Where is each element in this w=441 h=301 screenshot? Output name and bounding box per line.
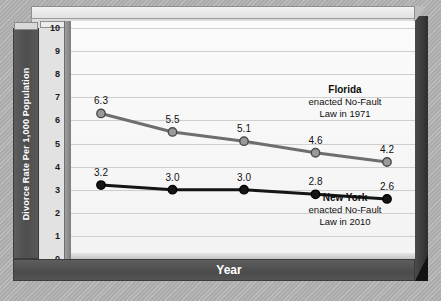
data-point-label: 4.2 xyxy=(380,144,394,155)
annotation-florida-name: Florida xyxy=(275,84,415,96)
data-point-label: 5.1 xyxy=(237,123,251,134)
data-point-label: 2.6 xyxy=(380,181,394,192)
y-axis-edge-bevel xyxy=(64,21,71,259)
data-point-marker xyxy=(311,149,319,157)
data-point-marker xyxy=(240,137,248,145)
data-point-label: 2.8 xyxy=(309,176,323,187)
data-point-label: 5.5 xyxy=(166,114,180,125)
annotation-newyork: New York enacted No-Fault Law in 2010 xyxy=(275,192,415,228)
chart-right-wall xyxy=(415,16,428,281)
data-point-label: 4.6 xyxy=(309,135,323,146)
y-tick-label: 6 xyxy=(40,115,60,125)
data-point-label: 3.0 xyxy=(166,172,180,183)
annotation-florida: Florida enacted No-Fault Law in 1971 xyxy=(275,84,415,120)
data-point-marker xyxy=(97,181,105,189)
x-axis-title-bar: Year xyxy=(13,259,415,281)
y-tick-label: 9 xyxy=(40,46,60,56)
data-point-label: 3.2 xyxy=(94,167,108,178)
data-point-marker xyxy=(383,158,391,166)
data-point-marker xyxy=(168,186,176,194)
y-axis-title-bar: Divorce Rate Per 1,000 Population xyxy=(13,28,39,259)
annotation-florida-line1: enacted No-Fault xyxy=(275,96,415,108)
y-tick-label: 2 xyxy=(40,208,60,218)
annotation-newyork-line1: enacted No-Fault xyxy=(275,204,415,216)
chart-corner-shadow xyxy=(415,255,428,281)
annotation-florida-line2: Law in 1971 xyxy=(275,108,415,120)
y-tick-label: 5 xyxy=(40,139,60,149)
data-point-marker xyxy=(240,186,248,194)
annotation-newyork-line2: Law in 2010 xyxy=(275,216,415,228)
annotation-newyork-name: New York xyxy=(275,192,415,204)
y-tick-label: 3 xyxy=(40,185,60,195)
y-tick-label: 7 xyxy=(40,92,60,102)
chart-canvas: Divorce Rate Per 1,000 Population 012345… xyxy=(0,0,441,301)
x-axis-title: Year xyxy=(14,260,414,280)
data-point-label: 3.0 xyxy=(237,172,251,183)
chart-top-lip-bevel xyxy=(415,6,427,21)
data-point-marker xyxy=(97,109,105,117)
y-axis-title: Divorce Rate Per 1,000 Population xyxy=(21,67,31,220)
data-point-label: 6.3 xyxy=(94,95,108,106)
data-point-marker xyxy=(168,128,176,136)
y-tick-label: 4 xyxy=(40,162,60,172)
y-tick-label: 1 xyxy=(40,231,60,241)
chart-3d-block: Divorce Rate Per 1,000 Population 012345… xyxy=(13,6,428,291)
y-tick-label: 8 xyxy=(40,69,60,79)
y-axis-title-bar-cap xyxy=(14,22,38,30)
y-tick-label: 10 xyxy=(40,23,60,33)
y-axis-tick-labels: 012345678910 xyxy=(40,28,64,259)
